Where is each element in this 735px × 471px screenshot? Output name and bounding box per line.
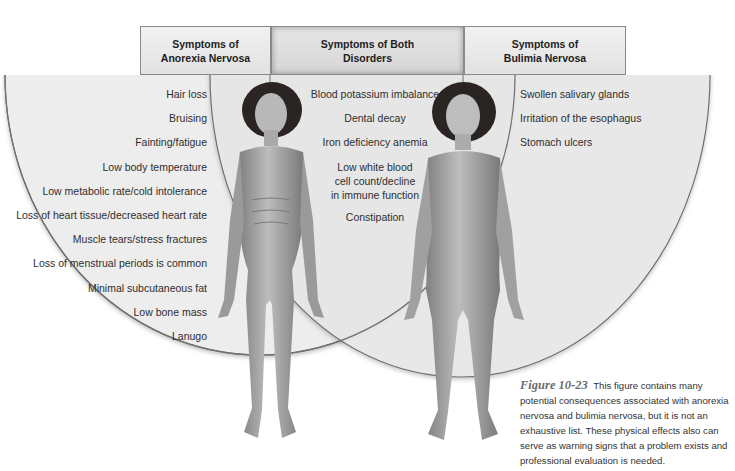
list-item: Low metabolic rate/cold intolerance	[0, 184, 207, 208]
header-anorexia: Symptoms of Anorexia Nervosa	[140, 26, 271, 75]
list-item: Muscle tears/stress fractures	[0, 232, 207, 256]
header-both-label: Symptoms of Both Disorders	[321, 37, 414, 65]
list-item: Low bone mass	[0, 305, 207, 329]
header-both: Symptoms of Both Disorders	[271, 26, 464, 75]
caption-text: This figure contains many potential cons…	[520, 380, 729, 466]
list-item: Blood potassium imbalance	[300, 87, 450, 111]
list-item: Bruising	[0, 111, 207, 135]
figure-caption: Figure 10-23 This figure contains many p…	[520, 378, 732, 468]
venn-diagram: Symptoms of Anorexia Nervosa Symptoms of…	[0, 0, 735, 471]
list-item: Irritation of the esophagus	[520, 111, 680, 135]
header-bulimia: Symptoms of Bulimia Nervosa	[464, 26, 626, 75]
list-item: Stomach ulcers	[520, 135, 680, 159]
list-item: Iron deficiency anemia	[300, 135, 450, 159]
list-item: Loss of heart tissue/decreased heart rat…	[0, 208, 207, 232]
list-item: Dental decay	[300, 111, 450, 135]
list-item: Loss of menstrual periods is common	[0, 256, 207, 280]
list-item: Low body temperature	[0, 160, 207, 184]
header-anorexia-label: Symptoms of Anorexia Nervosa	[161, 37, 250, 65]
list-item: Lanugo	[0, 329, 207, 353]
list-item: Low white blood cell count/decline in im…	[300, 160, 450, 210]
bulimia-symptom-list: Swollen salivary glands Irritation of th…	[520, 87, 680, 160]
header-bulimia-label: Symptoms of Bulimia Nervosa	[504, 37, 586, 65]
list-item: Minimal subcutaneous fat	[0, 281, 207, 305]
list-item: Hair loss	[0, 87, 207, 111]
list-item: Swollen salivary glands	[520, 87, 680, 111]
both-symptom-list: Blood potassium imbalance Dental decay I…	[300, 87, 450, 234]
figure-label: Figure 10-23	[520, 378, 588, 392]
anorexia-symptom-list: Hair loss Bruising Fainting/fatigue Low …	[0, 87, 207, 353]
list-item: Constipation	[300, 210, 450, 234]
list-item: Fainting/fatigue	[0, 135, 207, 159]
